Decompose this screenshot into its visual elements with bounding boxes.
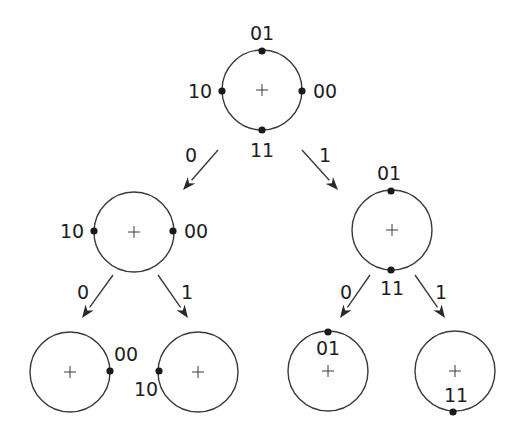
- constellation-point-dot: [387, 266, 394, 273]
- symbol-label: 00: [313, 80, 337, 102]
- node-right-left: 01: [288, 328, 368, 411]
- constellation-point-dot: [90, 227, 97, 234]
- arrow-head-icon: [433, 304, 445, 318]
- constellation-point-dot: [258, 126, 265, 133]
- constellation-point-dot: [169, 227, 176, 234]
- symbol-label: 11: [250, 139, 274, 161]
- symbol-label: 10: [188, 80, 212, 102]
- origin-plus-icon: [192, 366, 204, 378]
- arrow-head-icon: [82, 305, 94, 318]
- edge-left-to-left-right: 1: [158, 275, 193, 318]
- edge-right-to-right-left: 0: [340, 275, 370, 318]
- edge-right-to-right-right: 1: [415, 275, 447, 318]
- node-right-right: 11: [415, 331, 495, 416]
- node-left-right: 10: [134, 332, 238, 412]
- constellation-point-dot: [106, 367, 113, 374]
- symbol-label: 00: [184, 220, 208, 242]
- symbol-label: 01: [250, 22, 274, 44]
- edge-bit-label: 0: [340, 281, 352, 303]
- symbol-label: 01: [377, 162, 401, 184]
- edge-line: [158, 275, 181, 307]
- symbol-label: 11: [444, 384, 468, 406]
- origin-plus-icon: [449, 365, 461, 377]
- symbol-label: 11: [380, 277, 404, 299]
- edge-bit-label: 0: [77, 281, 89, 303]
- constellation-point-dot: [387, 187, 394, 194]
- constellation-point-dot: [324, 328, 331, 335]
- edge-root-to-right: 1: [302, 144, 338, 190]
- symbol-label: 01: [316, 337, 340, 359]
- symbol-label: 00: [114, 343, 138, 365]
- constellation-point-dot: [218, 87, 225, 94]
- origin-plus-icon: [386, 224, 398, 236]
- edge-bit-label: 1: [181, 281, 193, 303]
- node-left: 1000: [60, 192, 208, 272]
- origin-plus-icon: [322, 365, 334, 377]
- symbol-label: 10: [60, 220, 84, 242]
- symbol-label: 10: [134, 378, 158, 400]
- edge-left-to-left-left: 0: [77, 275, 113, 318]
- decision-tree-diagram: 010101 010011101000011100100111: [0, 0, 522, 433]
- origin-plus-icon: [64, 366, 76, 378]
- constellation-point-dot: [155, 367, 162, 374]
- constellation-point-dot: [298, 87, 305, 94]
- node-left-left: 00: [30, 332, 138, 412]
- origin-plus-icon: [256, 84, 268, 96]
- nodes-layer: 010011101000011100100111: [30, 22, 495, 416]
- constellation-point-dot: [258, 47, 265, 54]
- arrow-head-icon: [176, 304, 188, 318]
- edge-bit-label: 0: [185, 144, 197, 166]
- edge-bit-label: 1: [319, 144, 331, 166]
- arrow-head-icon: [340, 304, 352, 318]
- origin-plus-icon: [128, 226, 140, 238]
- constellation-point-dot: [449, 408, 456, 415]
- node-right: 0111: [352, 162, 432, 299]
- edge-line: [90, 275, 113, 307]
- edge-root-to-left: 0: [183, 144, 218, 190]
- edge-bit-label: 1: [435, 281, 447, 303]
- node-root: 01001110: [188, 22, 337, 161]
